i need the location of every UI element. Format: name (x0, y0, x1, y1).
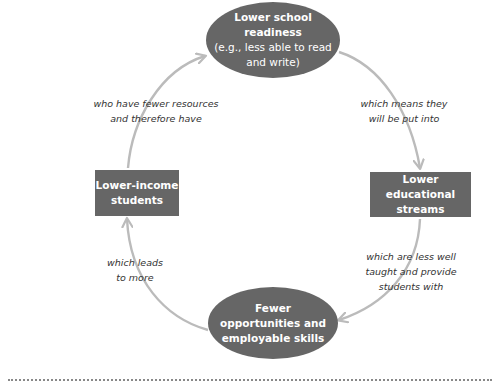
node-lower-income-students: Lower-income students (95, 170, 179, 216)
node-top-title-line1: Lower school (234, 10, 312, 25)
node-right-line2: streams (397, 202, 445, 217)
node-right-line1: Lower educational (370, 172, 471, 202)
edge-label-line: which are less well (355, 249, 467, 264)
edge-label-left-to-top: who have fewer resources and therefore h… (86, 96, 226, 126)
cycle-diagram: Lower school readiness (e.g., less able … (0, 0, 492, 385)
edge-label-bottom-to-left: which leads to more (100, 255, 170, 285)
node-top-title-line2: readiness (244, 25, 302, 40)
edge-label-line: to more (100, 270, 170, 285)
node-bottom-line3: employable skills (222, 331, 325, 346)
edge-label-line: which means they (349, 96, 459, 111)
edge-label-top-to-right: which means they will be put into (349, 96, 459, 126)
node-bottom-line2: opportunities and (220, 316, 326, 331)
node-left-line1: Lower-income (96, 178, 179, 193)
node-left-line2: students (111, 193, 163, 208)
edge-label-line: taught and provide (355, 264, 467, 279)
node-bottom-line1: Fewer (255, 301, 291, 316)
edge-label-line: who have fewer resources (86, 96, 226, 111)
node-top-sub-line2: and write) (246, 55, 300, 70)
node-lower-educational-streams: Lower educational streams (370, 172, 471, 217)
edge-label-line: and therefore have (86, 111, 226, 126)
edge-label-line: which leads (100, 255, 170, 270)
edge-label-line: students with (355, 279, 467, 294)
node-lower-school-readiness: Lower school readiness (e.g., less able … (206, 2, 340, 78)
node-fewer-opportunities: Fewer opportunities and employable skill… (208, 287, 338, 359)
edge-label-right-to-bottom: which are less well taught and provide s… (355, 249, 467, 294)
edge-label-line: will be put into (349, 111, 459, 126)
node-top-sub-line1: (e.g., less able to read (214, 40, 332, 55)
dotted-divider (8, 379, 492, 381)
